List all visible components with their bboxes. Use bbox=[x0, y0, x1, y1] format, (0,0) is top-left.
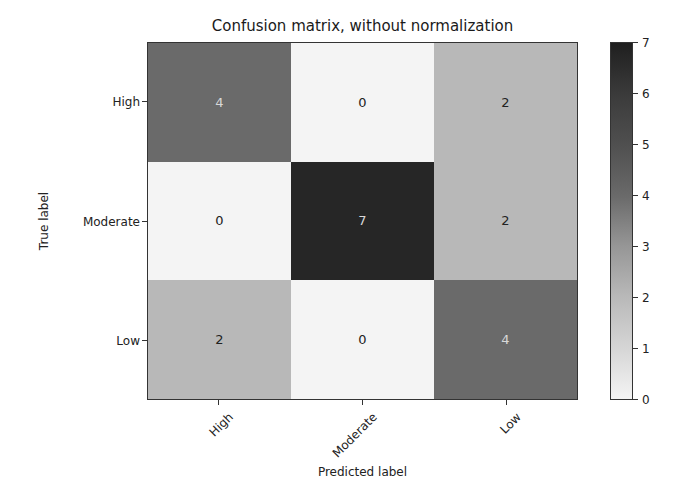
colorbar-label-4: 4 bbox=[642, 189, 650, 203]
colorbar-tick bbox=[633, 42, 638, 43]
x-tick-mark bbox=[218, 400, 219, 405]
cell-low-high: 2 bbox=[148, 280, 291, 399]
colorbar-tick bbox=[633, 297, 638, 298]
colorbar-tick bbox=[633, 93, 638, 94]
x-tick-label-moderate: Moderate bbox=[330, 410, 380, 460]
y-tick-mark bbox=[142, 101, 147, 102]
cell-high-moderate: 0 bbox=[291, 43, 434, 162]
colorbar-label-6: 6 bbox=[642, 87, 650, 101]
cell-moderate-high: 0 bbox=[148, 162, 291, 281]
colorbar-label-7: 7 bbox=[642, 36, 650, 50]
x-tick-mark bbox=[506, 400, 507, 405]
colorbar-tick bbox=[633, 246, 638, 247]
cell-low-moderate: 0 bbox=[291, 280, 434, 399]
y-tick-mark bbox=[142, 340, 147, 341]
cell-moderate-low: 2 bbox=[434, 162, 577, 281]
y-tick-label-high: High bbox=[112, 95, 140, 109]
colorbar-label-3: 3 bbox=[642, 240, 650, 254]
colorbar-label-0: 0 bbox=[642, 393, 650, 407]
colorbar bbox=[610, 42, 633, 400]
confusion-matrix-plot: 4 0 2 0 7 2 2 0 4 bbox=[147, 42, 578, 400]
colorbar-tick bbox=[633, 144, 638, 145]
cell-high-high: 4 bbox=[148, 43, 291, 162]
x-tick-label-low: Low bbox=[497, 410, 524, 437]
y-tick-mark bbox=[142, 221, 147, 222]
y-tick-label-moderate: Moderate bbox=[83, 215, 140, 229]
colorbar-tick bbox=[633, 399, 638, 400]
colorbar-tick bbox=[633, 195, 638, 196]
cell-low-low: 4 bbox=[434, 280, 577, 399]
y-tick-label-low: Low bbox=[116, 334, 140, 348]
cell-moderate-moderate: 7 bbox=[291, 162, 434, 281]
chart-title: Confusion matrix, without normalization bbox=[147, 17, 578, 35]
colorbar-label-1: 1 bbox=[642, 342, 650, 356]
y-axis-label: True label bbox=[37, 192, 51, 250]
x-axis-label: Predicted label bbox=[147, 465, 578, 479]
colorbar-label-2: 2 bbox=[642, 291, 650, 305]
cell-high-low: 2 bbox=[434, 43, 577, 162]
colorbar-tick bbox=[633, 348, 638, 349]
colorbar-label-5: 5 bbox=[642, 138, 650, 152]
x-tick-label-high: High bbox=[206, 410, 235, 439]
x-tick-mark bbox=[362, 400, 363, 405]
